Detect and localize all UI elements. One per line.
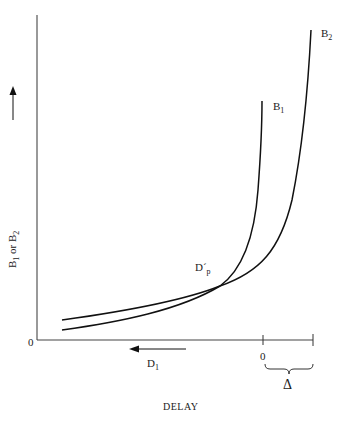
diagram-canvas	[0, 0, 344, 422]
curve-b2	[62, 30, 311, 320]
curve-b1	[62, 101, 262, 330]
d1-arrow-left-icon	[129, 346, 139, 353]
crossing-point-label: D´p	[195, 262, 211, 276]
delta-label: Δ	[283, 378, 292, 392]
d1-label: D1	[147, 358, 159, 372]
series-label-b2: B2	[321, 28, 332, 42]
y-axis-label: B1 or B2	[6, 231, 21, 268]
x-tick-zero-label: 0	[260, 351, 266, 362]
y-arrow-up-icon	[10, 86, 17, 95]
origin-label: 0	[28, 337, 34, 348]
x-axis-label: DELAY	[163, 402, 198, 412]
series-label-b1: B1	[273, 101, 284, 115]
delta-brace	[265, 364, 313, 374]
